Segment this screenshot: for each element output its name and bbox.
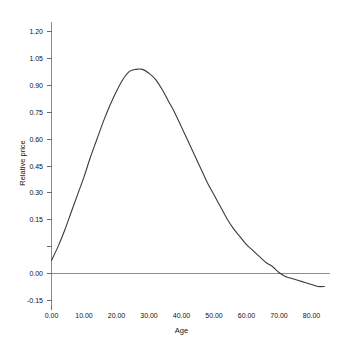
x-axis-tick-labels: 0.00 10.00 20.00 30.00 40.00 50.00 60.00… [45, 312, 321, 319]
y-tick-label-neg0_15: -0.15 [27, 297, 43, 304]
x-tick-label-10: 10.00 [75, 312, 93, 319]
x-axis-title: Age [175, 326, 188, 335]
chart-figure: 1.20 1.05 0.90 0.75 0.60 0.45 0.30 0.15 … [0, 0, 338, 350]
x-tick-label-80: 80.00 [303, 312, 321, 319]
relative-price-line-chart: 1.20 1.05 0.90 0.75 0.60 0.45 0.30 0.15 … [0, 0, 338, 350]
x-tick-label-0: 0.00 [45, 312, 59, 319]
y-tick-label-0_90: 0.90 [29, 82, 43, 89]
x-tick-label-40: 40.00 [173, 312, 191, 319]
y-tick-label-0_00: 0.00 [29, 270, 43, 277]
y-tick-label-1_20: 1.20 [29, 28, 43, 35]
y-axis-title: Relative price [18, 140, 27, 185]
x-tick-label-30: 30.00 [140, 312, 158, 319]
relative-price-curve [52, 69, 325, 287]
y-tick-label-1_05: 1.05 [29, 55, 43, 62]
x-tick-label-60: 60.00 [238, 312, 256, 319]
y-tick-label-0_75: 0.75 [29, 109, 43, 116]
y-tick-label-0_45: 0.45 [29, 163, 43, 170]
x-tick-label-70: 70.00 [270, 312, 288, 319]
y-tick-label-0_30: 0.30 [29, 189, 43, 196]
y-axis-tick-labels: 1.20 1.05 0.90 0.75 0.60 0.45 0.30 0.15 … [27, 28, 43, 304]
y-tick-label-0_15: 0.15 [29, 216, 43, 223]
y-tick-label-0_60: 0.60 [29, 136, 43, 143]
y-axis-ticks [47, 32, 52, 301]
x-tick-label-50: 50.00 [205, 312, 223, 319]
x-tick-label-20: 20.00 [108, 312, 126, 319]
